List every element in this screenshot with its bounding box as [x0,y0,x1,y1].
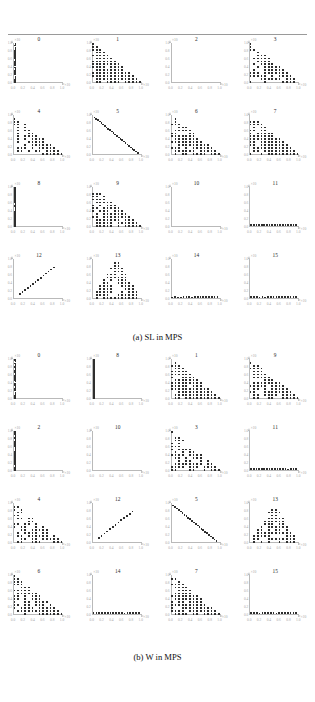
data-point [24,587,26,589]
subplot: 14×10×101.00.80.60.40.20.00.00.20.40.60.… [79,568,157,640]
data-point [271,147,273,149]
data-point [257,133,259,135]
data-point [268,521,270,523]
data-point [14,81,16,83]
data-point [193,135,195,137]
data-point [211,391,213,393]
data-point [196,379,198,381]
y-tick-label: 1.0 [165,185,169,189]
y-tick-label: 0.6 [244,589,248,593]
x-tick-label: 1.0 [60,158,64,162]
data-point [261,374,263,376]
data-point [39,541,41,543]
data-point [61,153,63,155]
data-point [189,382,191,384]
y-tick-label: 1.0 [165,113,169,117]
data-point [266,224,268,226]
subplot: 1×10×101.00.80.60.40.20.00.00.20.40.60.8… [158,352,236,424]
x-tick-label: 0.6 [40,158,44,162]
y-tick-labels: 1.00.80.60.40.20.0 [159,113,170,155]
data-point [268,532,270,534]
data-point [28,601,30,603]
data-point [118,225,120,227]
data-point [118,81,120,83]
data-point [125,78,127,80]
data-point [268,69,270,71]
y-tick-label: 0.2 [8,73,12,77]
data-point [271,521,273,523]
x-tick-label: 1.0 [217,474,221,478]
data-point [182,374,184,376]
data-point [99,61,101,63]
plot-area [92,187,141,227]
data-point [175,437,177,439]
data-point [185,377,187,379]
data-point [30,285,32,287]
data-point [175,379,177,381]
x-tick-label: 0.4 [267,302,271,306]
data-point [261,58,263,60]
x-tick-label: 0.0 [168,302,172,306]
x-tick-labels: 0.00.20.40.60.81.0 [11,84,69,90]
x-tick-label: 0.0 [90,86,94,90]
data-point [93,365,95,367]
y-tick-labels: 1.00.80.60.40.20.0 [159,41,170,83]
data-point [24,595,26,597]
data-point [182,388,184,390]
subplot: 6×10×101.00.80.60.40.20.00.00.20.40.60.8… [158,108,236,180]
y-tick-label: 0.4 [165,65,169,69]
data-point [171,124,173,126]
data-point [264,377,266,379]
data-point [279,468,281,470]
data-point [14,187,16,189]
data-point [107,225,109,227]
data-point [32,598,34,600]
subplot-axes: ×10×101.00.80.60.40.20.00.00.20.40.60.81… [13,431,69,479]
data-point [103,202,105,204]
y-tick-label: 1.0 [8,573,12,577]
data-point [118,271,120,273]
data-point [14,52,16,54]
data-point [35,135,37,137]
data-point [257,61,259,63]
y-tick-label: 0.8 [244,49,248,53]
data-point [279,138,281,140]
data-point [96,202,98,204]
data-point [281,296,283,298]
data-point [284,296,286,298]
data-point [99,52,101,54]
x-tick-label: 1.0 [139,618,143,622]
data-point [193,138,195,140]
plot-area [250,115,299,155]
data-point [200,144,202,146]
data-point [32,518,34,520]
subplot: 0×10×101.00.80.60.40.20.00.00.20.40.60.8… [0,36,78,108]
data-point [264,135,266,137]
data-point [200,397,202,399]
data-point [96,72,98,74]
data-point [24,124,26,126]
data-point [35,538,37,540]
data-point [259,613,261,615]
data-point [282,150,284,152]
data-point [218,613,220,615]
y-tick-label: 0.2 [244,389,248,393]
data-point [268,144,270,146]
data-point [93,369,95,371]
data-point [17,515,19,517]
y-tick-label: 0.8 [86,121,90,125]
x-tick-label: 0.8 [286,302,290,306]
data-point [185,379,187,381]
subplot-axes: ×10×101.00.80.60.40.20.00.00.20.40.60.81… [249,359,305,407]
data-point [264,66,266,68]
data-point [171,147,173,149]
data-point [14,205,16,207]
data-point [121,274,123,276]
data-point [196,147,198,149]
data-point [96,219,98,221]
data-point [121,285,123,287]
data-point [193,463,195,465]
data-point [275,144,277,146]
data-point [275,518,277,520]
data-point [110,274,112,276]
